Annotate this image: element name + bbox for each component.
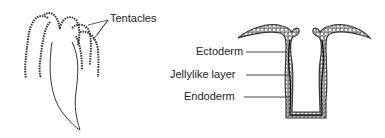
- cross-section-illustration: [238, 25, 370, 118]
- endoderm-label: Endoderm: [184, 91, 235, 102]
- ectoderm-label: Ectoderm: [196, 46, 243, 57]
- hydra-illustration: [25, 13, 108, 130]
- jellylike-layer-label: Jellylike layer: [170, 69, 235, 80]
- tentacle: [60, 17, 79, 45]
- tentacle: [80, 32, 98, 77]
- tentacle: [40, 22, 50, 78]
- body-wall: [238, 25, 370, 118]
- tentacle: [44, 13, 60, 30]
- jellylike-layer-line: [289, 40, 324, 115]
- tentacles-label: Tentacles: [110, 13, 156, 24]
- tentacle: [25, 16, 48, 78]
- hydra-body: [50, 42, 80, 130]
- tentacle: [76, 36, 82, 70]
